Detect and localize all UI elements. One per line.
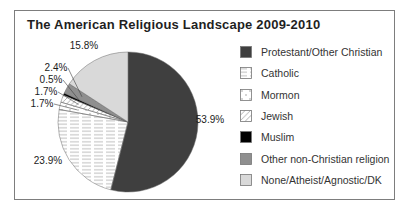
percent-label-jewish: 1.7% [35,86,58,97]
pie-chart: 53.9%23.9%1.7%1.7%0.5%2.4%15.8% [0,0,406,214]
percent-label-mormon: 1.7% [31,98,54,109]
percent-label-muslim: 0.5% [40,74,63,85]
percent-label-none-atheist-agnostic-dk: 15.8% [70,40,98,51]
percent-label-protestant-other-christian: 53.9% [196,114,224,125]
percent-label-catholic: 23.9% [34,155,62,166]
pie-slices [58,52,198,192]
percent-label-other-non-christian: 2.4% [45,62,68,73]
